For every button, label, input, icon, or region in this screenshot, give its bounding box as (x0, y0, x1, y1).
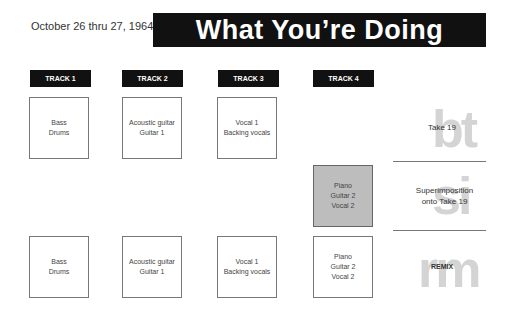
superimposition-track-4-box: PianoGuitar 2Vocal 2 (313, 165, 373, 227)
remix-track-4-box: PianoGuitar 2Vocal 2 (313, 236, 373, 298)
label-line: onto Take 19 (392, 196, 497, 207)
box-line: Piano (331, 252, 356, 262)
remix-track-2-box: Acoustic guitarGuitar 1 (122, 236, 182, 298)
take-track-2-box: Acoustic guitarGuitar 1 (122, 97, 182, 159)
box-line: Vocal 2 (331, 201, 356, 211)
box-line: Acoustic guitar (129, 118, 175, 128)
box-line: Piano (331, 181, 356, 191)
track-2-header: TRACK 2 (122, 70, 183, 87)
box-line: Bass (49, 257, 70, 267)
box-line: Guitar 1 (129, 128, 175, 138)
superimposition-label: Superimposition onto Take 19 (392, 185, 497, 207)
session-date: October 26 thru 27, 1964 (31, 20, 153, 32)
track-1-header: TRACK 1 (30, 70, 91, 87)
box-line: Vocal 1 (224, 118, 271, 128)
box-line: Vocal 2 (331, 272, 356, 282)
track-4-header: TRACK 4 (313, 70, 374, 87)
label-line: Superimposition (392, 185, 497, 196)
box-line: Acoustic guitar (129, 257, 175, 267)
remix-label: REMIX (392, 261, 492, 272)
box-line: Backing vocals (224, 267, 271, 277)
box-line: Bass (49, 118, 70, 128)
box-line: Guitar 1 (129, 267, 175, 277)
take-track-3-box: Vocal 1Backing vocals (217, 97, 277, 159)
row-divider (393, 230, 486, 231)
box-line: Guitar 2 (331, 191, 356, 201)
take-track-1-box: BassDrums (29, 97, 89, 159)
box-line: Guitar 2 (331, 262, 356, 272)
take-label: Take 19 (392, 122, 492, 133)
box-line: Drums (49, 267, 70, 277)
box-line: Backing vocals (224, 128, 271, 138)
track-3-header: TRACK 3 (218, 70, 279, 87)
box-line: Drums (49, 128, 70, 138)
remix-track-1-box: BassDrums (29, 236, 89, 298)
song-title: What You’re Doing (153, 13, 486, 47)
remix-track-3-box: Vocal 1Backing vocals (217, 236, 277, 298)
row-divider (393, 161, 486, 162)
box-line: Vocal 1 (224, 257, 271, 267)
